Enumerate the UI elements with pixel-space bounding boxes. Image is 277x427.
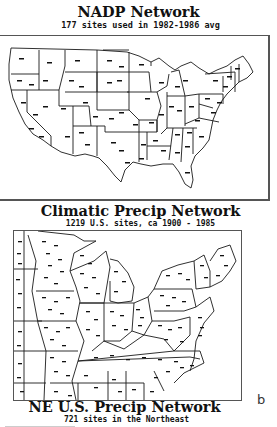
eastern-us-states-map — [14, 231, 241, 400]
nadp-network-subtitle: 177 sites used in 1982-1986 avg — [2, 20, 277, 30]
us-states-map — [0, 36, 269, 200]
ne-network-title: NE U.S. Precip Network — [0, 398, 263, 415]
eastern-us-map-frame — [13, 230, 242, 401]
ne-network-subtitle: 721 sites in the Northeast — [0, 415, 265, 424]
climatic-network-title: Climatic Precip Network — [2, 202, 277, 219]
climatic-network-subtitle: 1219 U.S. sites, ca 1900 - 1985 — [2, 219, 277, 228]
site-markers — [17, 58, 240, 174]
site-markers — [16, 241, 228, 396]
nadp-network-title: NADP Network — [0, 3, 277, 20]
us-map-frame — [0, 35, 270, 201]
panel-letter-label: b — [257, 392, 265, 407]
